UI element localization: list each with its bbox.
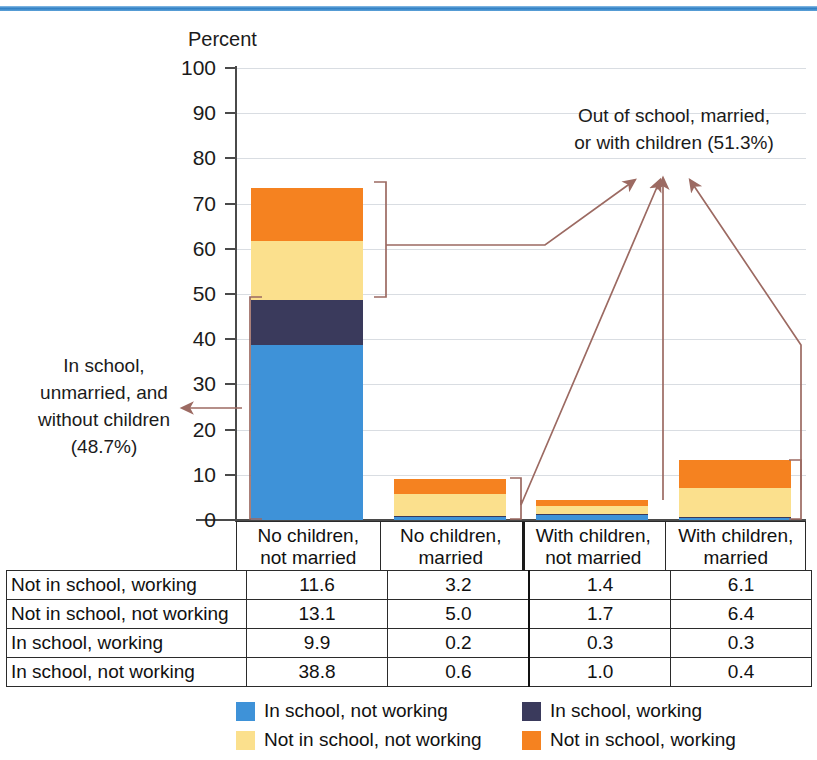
- annotation-left-line2: unmarried, and: [6, 379, 202, 406]
- table-cell: 5.0: [388, 600, 529, 629]
- table-cell: 38.8: [246, 658, 388, 687]
- y-tick: [225, 248, 236, 250]
- legend-swatch-not-in-school-not-working: [236, 731, 255, 750]
- bar-segment: [394, 479, 506, 493]
- category-label-line1: No children,: [400, 525, 501, 547]
- category-divider: [522, 522, 525, 572]
- table-cell: 11.6: [246, 571, 388, 600]
- y-tick: [225, 338, 236, 340]
- y-tick: [225, 112, 236, 114]
- table-row: Not in school, not working13.15.01.76.4: [7, 600, 812, 629]
- figure-root: Percent 1009080706050403020100: [0, 0, 817, 760]
- chart-area: Percent 1009080706050403020100: [0, 0, 817, 560]
- table-row: In school, not working38.80.61.00.4: [7, 658, 812, 687]
- legend-swatch-in-school-not-working: [236, 702, 255, 721]
- category-divider: [665, 522, 667, 572]
- bar-segment: [679, 517, 791, 518]
- table-cell: 6.4: [671, 600, 812, 629]
- category-label-line2: married: [419, 547, 483, 569]
- bar-segment: [394, 494, 506, 517]
- annotation-left-line1: In school,: [6, 352, 202, 379]
- bar-2: [394, 68, 506, 520]
- category-label-line1: No children,: [258, 525, 359, 547]
- table-cell: 13.1: [246, 600, 388, 629]
- table-cell: 9.9: [246, 629, 388, 658]
- y-tick: [225, 429, 236, 431]
- annotation-left-line3: without children: [6, 406, 202, 433]
- legend-label-3: Not in school, working: [550, 729, 736, 751]
- y-tick-label: 90: [170, 102, 216, 123]
- legend: In school, not working In school, workin…: [236, 700, 816, 751]
- legend-item-1: In school, working: [522, 700, 816, 722]
- table-row: Not in school, working11.63.21.46.1: [7, 571, 812, 600]
- y-tick-label: 40: [170, 328, 216, 349]
- bar-segment: [251, 241, 363, 300]
- y-axis-title: Percent: [188, 28, 257, 51]
- category-label-line2: not married: [545, 547, 641, 569]
- y-tick: [225, 293, 236, 295]
- table-row-header: Not in school, not working: [7, 600, 247, 629]
- table-row-header: In school, working: [7, 629, 247, 658]
- category-label-line1: With children,: [536, 525, 651, 547]
- legend-item-2: Not in school, not working: [236, 729, 522, 751]
- legend-label-0: In school, not working: [264, 700, 448, 722]
- annotation-right: Out of school, married, or with children…: [530, 102, 817, 156]
- table-cell: 1.4: [529, 571, 670, 600]
- y-tick: [225, 67, 236, 69]
- table-cell: 1.7: [529, 600, 670, 629]
- bar-1: [251, 68, 363, 520]
- y-tick: [225, 474, 236, 476]
- table-cell: 0.4: [671, 658, 812, 687]
- bar-segment: [679, 460, 791, 488]
- y-tick-label: 0: [170, 509, 216, 530]
- category-label-line1: With children,: [678, 525, 793, 547]
- bar-segment: [394, 517, 506, 520]
- legend-label-1: In school, working: [550, 700, 702, 722]
- y-tick-label: 50: [170, 283, 216, 304]
- table-row-header: In school, not working: [7, 658, 247, 687]
- annotation-left-line4: (48.7%): [6, 433, 202, 460]
- bar-segment: [536, 506, 648, 514]
- annotation-right-line1: Out of school, married,: [530, 102, 817, 129]
- legend-item-3: Not in school, working: [522, 729, 816, 751]
- y-tick-label: 60: [170, 238, 216, 259]
- y-tick: [225, 383, 236, 385]
- category-label-line2: not married: [260, 547, 356, 569]
- bar-segment: [251, 345, 363, 520]
- table-cell: 0.6: [388, 658, 529, 687]
- bar-segment: [679, 518, 791, 520]
- legend-label-2: Not in school, not working: [264, 729, 482, 751]
- y-tick: [225, 157, 236, 159]
- table-cell: 0.3: [529, 629, 670, 658]
- table-cell: 3.2: [388, 571, 529, 600]
- table-cell: 6.1: [671, 571, 812, 600]
- legend-swatch-not-in-school-working: [522, 731, 541, 750]
- bar-segment: [536, 515, 648, 520]
- table-cell: 1.0: [529, 658, 670, 687]
- y-tick-label: 100: [170, 57, 216, 78]
- bar-segment: [536, 500, 648, 506]
- table-row: In school, working9.90.20.30.3: [7, 629, 812, 658]
- data-table: Not in school, working11.63.21.46.1Not i…: [6, 570, 812, 687]
- category-label-4: With children,married: [665, 522, 808, 572]
- y-tick-label: 10: [170, 464, 216, 485]
- annotation-right-line2: or with children (51.3%): [530, 129, 817, 156]
- legend-swatch-in-school-working: [522, 702, 541, 721]
- bar-segment: [536, 514, 648, 515]
- table-row-header: Not in school, working: [7, 571, 247, 600]
- y-tick: [225, 519, 236, 521]
- category-label-band: No children,not marriedNo children,marri…: [236, 521, 806, 573]
- y-tick-label: 70: [170, 193, 216, 214]
- y-tick: [225, 203, 236, 205]
- table-cell: 0.3: [671, 629, 812, 658]
- legend-item-0: In school, not working: [236, 700, 522, 722]
- bar-segment: [679, 488, 791, 517]
- bar-segment: [251, 300, 363, 345]
- category-divider: [380, 522, 382, 572]
- category-label-line2: married: [704, 547, 768, 569]
- category-label-1: No children,not married: [237, 522, 380, 572]
- annotation-left: In school, unmarried, and without childr…: [6, 352, 202, 460]
- bar-segment: [251, 188, 363, 240]
- category-label-3: With children,not married: [522, 522, 665, 572]
- bar-segment: [394, 516, 506, 517]
